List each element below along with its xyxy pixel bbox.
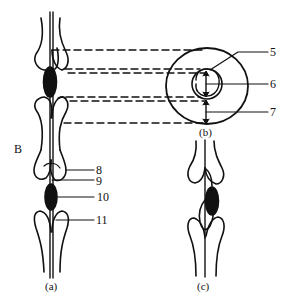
panel-c-structure: [188, 140, 224, 277]
callout-10: 10: [97, 191, 109, 203]
callout-5: 5: [270, 46, 276, 58]
caption-panel-a: (a): [45, 281, 57, 292]
side-label-b: B: [14, 143, 22, 155]
callout-11: 11: [96, 214, 108, 226]
panel-a-structure: [34, 12, 68, 278]
projection-lines: [52, 50, 205, 123]
callout-6: 6: [270, 78, 276, 90]
figure-canvas: [0, 0, 288, 307]
caption-panel-c: (c): [197, 281, 209, 292]
callout-9: 9: [96, 175, 102, 187]
caption-panel-b: (b): [199, 127, 212, 138]
callout-7: 7: [270, 106, 276, 118]
